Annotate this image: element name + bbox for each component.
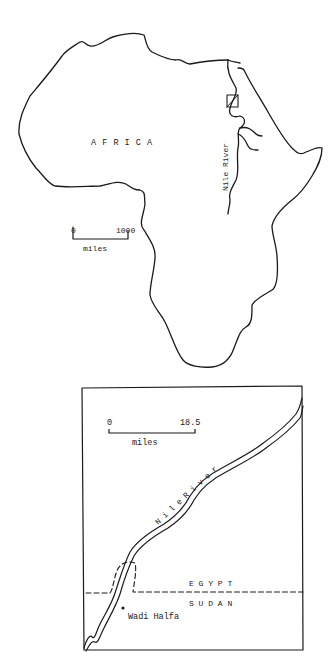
africa-label: A F R I C A bbox=[91, 138, 153, 148]
sudan-label: S U D A N bbox=[189, 599, 232, 608]
inset-scale-unit: miles bbox=[132, 438, 158, 448]
inset-nile-bank-west bbox=[84, 398, 302, 648]
africa-coastline bbox=[19, 33, 322, 367]
nile-tributary-upper bbox=[240, 127, 262, 136]
egypt-label: E G Y P T bbox=[189, 579, 232, 588]
inset-nile-bank-east bbox=[86, 406, 303, 651]
inset-scale-bar bbox=[109, 429, 195, 433]
inset-nile-river-label: N i l e R i v e r bbox=[153, 464, 219, 526]
map-figure: A F R I C A Nile River 0 1000 miles 0 18… bbox=[0, 0, 336, 669]
africa-scale-start: 0 bbox=[71, 226, 76, 235]
wadi-halfa-marker bbox=[121, 606, 124, 609]
africa-map bbox=[19, 33, 322, 367]
africa-nile-river-label: Nile River bbox=[221, 143, 230, 191]
inset-locator-diagonal bbox=[227, 95, 238, 107]
africa-scale-end: 1000 bbox=[116, 226, 135, 235]
inset-scale-end: 18.5 bbox=[180, 418, 200, 428]
nile-delta-coast bbox=[228, 60, 240, 63]
wadi-halfa-label: Wadi Halfa bbox=[128, 612, 179, 622]
egypt-sudan-border bbox=[86, 562, 303, 593]
nile-tributary-lower bbox=[238, 134, 258, 150]
africa-scale-unit: miles bbox=[83, 244, 107, 253]
inset-scale-start: 0 bbox=[107, 418, 112, 428]
